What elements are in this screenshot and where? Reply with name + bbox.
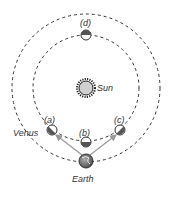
label-d: (d) [80, 19, 91, 28]
label-c: (c) [114, 116, 125, 125]
venus-d-icon [81, 30, 91, 40]
diagram-canvas [0, 0, 173, 197]
label-b: (b) [79, 129, 90, 138]
sun-icon [77, 79, 95, 97]
earth-icon [79, 154, 93, 168]
label-venus: Venus [13, 129, 38, 138]
label-a: (a) [44, 116, 55, 125]
label-earth: Earth [72, 175, 94, 184]
venus-c-icon [115, 125, 125, 135]
sightline-earth-to-a [56, 135, 82, 155]
venus-b-icon [81, 137, 91, 147]
venus-a-icon [47, 125, 57, 135]
sightline-earth-to-c [90, 135, 116, 155]
label-sun: Sun [97, 84, 113, 93]
